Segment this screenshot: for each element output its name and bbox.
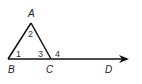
triangle-diagram: A B C D 2 1 3 4 <box>0 0 142 84</box>
angle-label-1: 1 <box>16 49 21 59</box>
angle-label-4: 4 <box>55 49 60 59</box>
angle-label-3: 3 <box>38 49 43 59</box>
angle-label-2: 2 <box>28 29 33 39</box>
point-label-c: C <box>46 64 54 75</box>
point-label-b: B <box>8 64 15 75</box>
point-label-a: A <box>27 8 35 19</box>
point-label-d: D <box>105 64 112 75</box>
